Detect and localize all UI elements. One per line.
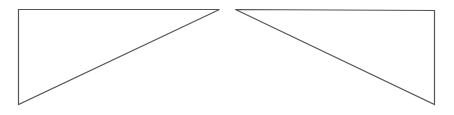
diagram-canvas xyxy=(0,0,454,115)
right-triangle xyxy=(236,10,435,105)
triangles-diagram xyxy=(0,0,454,115)
left-triangle xyxy=(19,10,220,105)
